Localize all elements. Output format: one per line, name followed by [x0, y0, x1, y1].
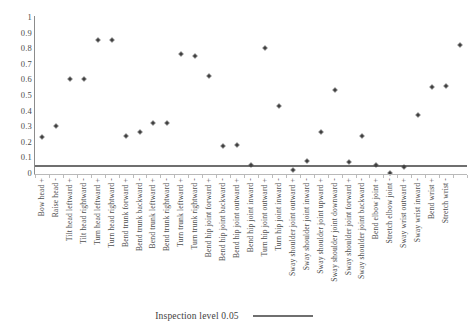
data-point	[124, 134, 127, 137]
data-point	[305, 159, 308, 162]
x-axis-label: Bend trunk rightward -	[162, 178, 173, 300]
data-point	[445, 84, 448, 87]
data-point	[54, 125, 57, 128]
x-axis-label: Turn head rightward -	[106, 178, 117, 300]
plot-area	[35, 17, 467, 173]
data-point	[40, 136, 43, 139]
data-point	[236, 143, 239, 146]
x-axis-label-text: Sway shoulder joint downward -	[331, 178, 339, 282]
x-axis-label: Sway shoulder joint downward -	[329, 178, 340, 300]
x-axis-label: Sway shoulder joint upward +	[315, 178, 326, 300]
data-point	[180, 53, 183, 56]
scatter-chart: 10.90.80.70.60.50.40.30.20.10 Bow head +…	[0, 0, 468, 335]
x-axis-label-text: Sway wrist inward -	[414, 178, 422, 242]
x-axis-label-text: Bend trunk leftward +	[149, 178, 157, 249]
data-point	[291, 168, 294, 171]
x-axis-label-text: Raise head -	[52, 178, 60, 217]
data-point	[319, 131, 322, 134]
x-axis-label: Sway wrist inward -	[413, 178, 424, 300]
data-point	[194, 55, 197, 58]
x-axis-label-text: Sway shoulder joint outward +	[289, 178, 297, 276]
data-point	[277, 104, 280, 107]
x-axis-label-text: Turn hip joint outward +	[261, 178, 269, 256]
x-axis-label-text: Tilt head rightward -	[80, 178, 88, 244]
x-axis-label: Bow head +	[36, 178, 47, 300]
y-tick-label: 0.2	[6, 137, 32, 146]
y-tick-label: 0.6	[6, 75, 32, 84]
x-axis-label-text: Bend trunk rightward -	[163, 178, 171, 251]
x-axis-label: Sway shoulder joint forward +	[343, 178, 354, 300]
x-axis-label-text: Sway shoulder joint forward +	[345, 178, 353, 275]
x-axis-label-text: Bend hip joint backward -	[219, 178, 227, 261]
x-axis-label-text: Turn trunk leftward +	[177, 178, 185, 247]
x-axis-label: Sway shoulder joint backward -	[357, 178, 368, 300]
x-axis-label: Sway shoulder joint outward +	[287, 178, 298, 300]
x-axis-label: Bend hip joint backward -	[218, 178, 229, 300]
x-axis-label-text: Sway shoulder joint inward -	[303, 178, 311, 270]
y-tick-label: 0.4	[6, 106, 32, 115]
data-point	[459, 44, 462, 47]
x-axis-label: Turn trunk leftward +	[176, 178, 187, 300]
x-axis-label-text: Tilt head leftward +	[66, 178, 74, 241]
x-axis-label-text: Stretch wrist -	[442, 178, 450, 223]
x-axis-label: Turn head leftward +	[92, 178, 103, 300]
x-axis-label: Bend trunk backward -	[134, 178, 145, 300]
x-axis-label: Tilt head leftward +	[64, 178, 75, 300]
x-axis-label: Bend hip joint inward -	[246, 178, 257, 300]
data-point	[166, 122, 169, 125]
x-axis-label-text: Bow head +	[38, 178, 46, 216]
data-point	[138, 131, 141, 134]
x-axis-label-text: Turn trunk rightward -	[191, 178, 199, 250]
data-point	[347, 161, 350, 164]
x-axis-label: Raise head -	[50, 178, 61, 300]
data-point	[403, 165, 406, 168]
data-point	[68, 78, 71, 81]
x-axis-labels: Bow head +Raise head -Tilt head leftward…	[35, 178, 467, 300]
y-tick-label: 0	[6, 169, 32, 178]
x-axis-label: Bend hip joint forward +	[204, 178, 215, 300]
x-axis-label: Stretch wrist -	[441, 178, 452, 300]
y-tick-label: 0.9	[6, 28, 32, 37]
data-point	[375, 164, 378, 167]
x-axis-label: Bend elbow joint +	[371, 178, 382, 300]
y-tick-label: 0.7	[6, 59, 32, 68]
data-point	[263, 47, 266, 50]
x-axis-label-text: Turn hip joint inward -	[275, 178, 283, 251]
y-tick-label: 0.3	[6, 122, 32, 131]
x-axis-label: Turn hip joint outward +	[259, 178, 270, 300]
x-axis-label-text: Bend wrist +	[428, 178, 436, 219]
y-tick-label: 1	[6, 13, 32, 22]
x-axis-label: Stretch elbow joint -	[385, 178, 396, 300]
data-point	[417, 114, 420, 117]
x-axis-label: Turn trunk rightward -	[190, 178, 201, 300]
legend-label: Inspection level 0.05	[155, 311, 239, 321]
x-axis-label-text: Sway wrist outward +	[400, 178, 408, 248]
x-axis-label-text: Sway shoulder joint backward -	[358, 178, 366, 279]
x-axis-label-text: Bend hip joint inward -	[247, 178, 255, 252]
data-point	[250, 164, 253, 167]
x-axis-label: Bend wrist +	[427, 178, 438, 300]
data-point	[208, 75, 211, 78]
y-axis: 10.90.80.70.60.50.40.30.20.10	[6, 17, 32, 173]
data-point	[361, 134, 364, 137]
x-axis-label-text: Bend elbow joint +	[372, 178, 380, 239]
x-axis-label-text: Turn head leftward +	[94, 178, 102, 245]
data-point	[110, 39, 113, 42]
data-point	[96, 39, 99, 42]
x-axis-label: Turn hip joint inward -	[273, 178, 284, 300]
data-point	[82, 78, 85, 81]
x-axis-label: Bend trunk forward +	[120, 178, 131, 300]
y-tick-label: 0.8	[6, 44, 32, 53]
x-axis-label: Sway wrist outward +	[399, 178, 410, 300]
data-point	[431, 86, 434, 89]
data-point	[152, 122, 155, 125]
x-axis-label-text: Sway shoulder joint upward +	[317, 178, 325, 274]
x-axis-label-text: Bend trunk backward -	[136, 178, 144, 251]
legend-line-swatch	[253, 315, 313, 316]
x-axis-label: Bend trunk leftward +	[148, 178, 159, 300]
x-axis-label: Bend hip joint outward +	[232, 178, 243, 300]
x-axis-label-text: Stretch elbow joint -	[386, 178, 394, 243]
x-axis-label-text: Bend hip joint forward +	[205, 178, 213, 257]
x-axis-label: Tilt head rightward -	[78, 178, 89, 300]
x-axis-label-text: Bend hip joint outward +	[233, 178, 241, 258]
